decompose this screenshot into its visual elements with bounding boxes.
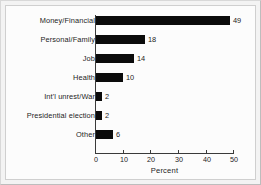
value-label-personal-family: 18 xyxy=(148,35,156,44)
x-tick-label-0: 0 xyxy=(86,155,106,164)
x-tick-10 xyxy=(123,150,124,153)
x-tick-50 xyxy=(233,150,234,153)
bar-chart: Money/Financial 49 Personal/Family 18 Jo… xyxy=(1,1,261,185)
value-label-presidential-election: 2 xyxy=(105,111,109,120)
bar-money-financial xyxy=(96,16,230,25)
bar-presidential-election xyxy=(96,111,102,120)
category-label-presidential-election: Presidential election xyxy=(27,111,95,120)
category-label-personal-family: Personal/Family xyxy=(41,35,95,44)
x-tick-label-40: 40 xyxy=(197,155,217,164)
x-tick-30 xyxy=(178,150,179,153)
x-tick-label-50: 50 xyxy=(224,155,244,164)
figure-frame: Money/Financial 49 Personal/Family 18 Jo… xyxy=(0,0,261,185)
bar-job xyxy=(96,54,134,63)
category-label-intl-unrest-war: Int'l unrest/War xyxy=(44,92,95,101)
value-label-other: 6 xyxy=(116,130,120,139)
category-label-other: Other xyxy=(76,130,95,139)
value-label-job: 14 xyxy=(137,54,145,63)
x-axis-title: Percent xyxy=(95,166,234,175)
value-label-money-financial: 49 xyxy=(233,16,241,25)
category-label-job: Job xyxy=(83,54,95,63)
value-label-health: 10 xyxy=(126,73,134,82)
bar-health xyxy=(96,73,123,82)
bar-intl-unrest-war xyxy=(96,92,102,101)
category-label-money-financial: Money/Financial xyxy=(40,16,95,25)
bar-personal-family xyxy=(96,35,145,44)
x-tick-20 xyxy=(150,150,151,153)
x-tick-40 xyxy=(206,150,207,153)
x-tick-0 xyxy=(95,150,96,153)
x-tick-label-10: 10 xyxy=(114,155,134,164)
x-tick-label-20: 20 xyxy=(141,155,161,164)
x-axis-line xyxy=(95,153,234,154)
bar-other xyxy=(96,130,113,139)
category-label-health: Health xyxy=(73,73,95,82)
x-tick-label-30: 30 xyxy=(169,155,189,164)
value-label-intl-unrest-war: 2 xyxy=(105,92,109,101)
